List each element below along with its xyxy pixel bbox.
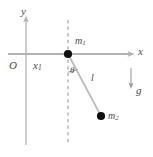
pendulum-rod [68, 54, 101, 116]
y-axis-label: y [21, 6, 26, 17]
physics-diagram-pendulum-on-cart: y x O x1 m1 m2 θ l g [0, 0, 153, 157]
rod-length-label: l [91, 73, 94, 83]
gravity-label: g [136, 85, 142, 96]
mass1-label: m1 [75, 36, 86, 47]
diagram-canvas [0, 0, 153, 157]
angle-label: θ [70, 66, 74, 75]
mass2-label: m2 [108, 111, 119, 122]
x-axis-label: x [138, 46, 143, 57]
mass1-node [64, 50, 72, 58]
mass2-node [97, 112, 105, 120]
mass2-subscript: 2 [115, 114, 118, 121]
displacement-subscript: 1 [38, 63, 42, 72]
displacement-label: x1 [33, 60, 42, 72]
mass1-subscript: 1 [82, 39, 85, 46]
origin-label: O [9, 60, 17, 71]
